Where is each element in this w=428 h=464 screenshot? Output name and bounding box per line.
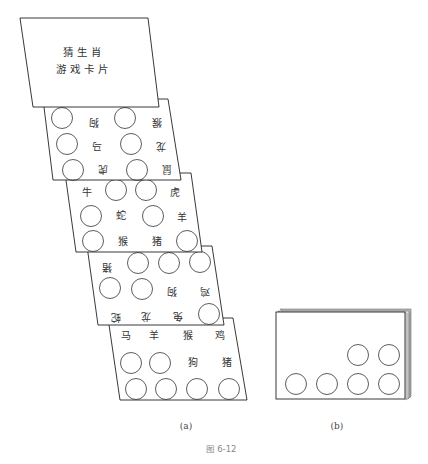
card-5-label-3: 猴	[183, 329, 193, 341]
card-5-label-4: 鸡	[215, 329, 225, 341]
card-4-label-3: 鸡	[200, 286, 210, 298]
card-4-outline	[87, 246, 224, 325]
card-4-label-2: 狗	[167, 286, 177, 298]
deck-front-card	[276, 312, 405, 399]
card-4-label-4: 蛇	[111, 312, 121, 324]
card-5-label-1: 马	[121, 330, 131, 341]
card-3-label-1: 牛	[82, 186, 92, 198]
card-2-label-6: 鼠	[162, 164, 172, 176]
zodiac-card-figure: 马 羊 猴 鸡 狗 猪 猪 狗 鸡 蛇 龙 兔 牛 虎 蛇	[0, 0, 428, 464]
card-2-label-2: 猴	[152, 117, 162, 129]
title-card: 猜生肖 游戏卡片	[20, 18, 159, 107]
card-2-outline	[43, 99, 181, 180]
card-5-label-6: 猪	[222, 357, 232, 368]
card-5-label-5: 狗	[188, 356, 198, 368]
caption-b: (b)	[331, 421, 344, 431]
card-2-label-4: 龙	[156, 141, 166, 153]
card-3: 牛 虎 蛇 羊 猴 猪	[65, 173, 202, 252]
caption-a: (a)	[180, 421, 192, 431]
card-5-label-2: 羊	[149, 329, 159, 341]
card-4: 猪 狗 鸡 蛇 龙 兔	[87, 246, 224, 325]
title-card-line-1: 猜生肖	[63, 46, 105, 58]
card-2-label-5: 虎	[98, 164, 108, 175]
card-4-label-1: 猪	[102, 262, 112, 273]
card-2: 狗 猴 马 龙 虎 鼠	[43, 99, 181, 181]
card-3-label-3: 蛇	[116, 209, 126, 221]
card-4-label-6: 兔	[173, 311, 183, 323]
card-3-label-4: 羊	[177, 211, 187, 223]
card-2-label-1: 狗	[89, 117, 99, 129]
card-3-label-2: 虎	[170, 187, 180, 198]
card-3-label-6: 猪	[152, 236, 162, 247]
card-3-label-5: 猴	[118, 235, 128, 247]
stacked-deck	[276, 309, 411, 400]
card-2-label-3: 马	[92, 141, 102, 152]
card-4-label-5: 龙	[141, 311, 151, 323]
card-5: 马 羊 猴 鸡 狗 猪	[108, 318, 247, 400]
figure-number: 图 6-12	[206, 444, 237, 454]
title-card-line-2: 游戏卡片	[56, 63, 112, 75]
